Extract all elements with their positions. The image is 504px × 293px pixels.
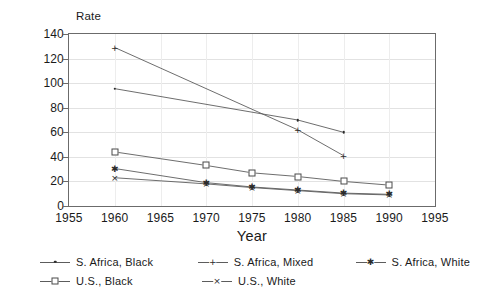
legend-label: S. Africa, White [386, 256, 470, 268]
y-tick-mark [63, 132, 68, 133]
plus-marker: + [294, 125, 302, 134]
legend-label: S. Africa, Mixed [228, 256, 314, 268]
dot-marker [114, 87, 117, 90]
y-axis-ticks: 020406080100120140 [16, 0, 64, 293]
legend-label: U.S., Black [70, 275, 133, 287]
x-marker: × [385, 190, 393, 199]
dot-marker-icon [40, 256, 70, 268]
series-markers: +++✱✱✱✱✱✱×××××× [69, 34, 435, 206]
x-tick-label: 1990 [376, 211, 404, 225]
plot-area: +++✱✱✱✱✱✱×××××× [68, 33, 436, 207]
x-tick-label: 1960 [101, 211, 129, 225]
x-tick-label: 1995 [421, 211, 449, 225]
y-tick-mark [63, 83, 68, 84]
y-tick-label: 100 [22, 76, 64, 90]
asterisk-marker-icon: ✱ [356, 256, 386, 268]
chart-legend: S. Africa, Black + S. Africa, Mixed ✱ S.… [40, 252, 470, 290]
y-tick-mark [63, 108, 68, 109]
y-tick-mark [63, 157, 68, 158]
x-tick-label: 1965 [147, 211, 175, 225]
x-axis-title: Year [0, 228, 504, 244]
legend-item-us-white[interactable]: × U.S., White [202, 271, 364, 290]
y-tick-label: 20 [22, 174, 64, 188]
dot-marker [297, 119, 300, 122]
y-tick-label: 60 [22, 125, 64, 139]
legend-label: S. Africa, Black [70, 256, 153, 268]
x-tick-label: 1985 [330, 211, 358, 225]
y-tick-mark [63, 59, 68, 60]
x-marker: × [294, 186, 302, 195]
x-marker: × [111, 173, 119, 182]
plus-marker-icon: + [198, 256, 228, 268]
line-chart: Rate 020406080100120140 +++✱✱✱✱✱✱×××××× … [0, 0, 504, 293]
square-marker [294, 173, 301, 180]
square-marker [249, 169, 256, 176]
y-tick-label: 80 [22, 101, 64, 115]
y-tick-mark [63, 206, 68, 207]
y-tick-label: 120 [22, 52, 64, 66]
x-marker: × [340, 189, 348, 198]
x-tick-label: 1955 [55, 211, 83, 225]
square-marker-icon [40, 275, 70, 287]
x-tick-label: 1970 [193, 211, 221, 225]
plus-marker: + [111, 43, 119, 52]
legend-item-s-africa-white[interactable]: ✱ S. Africa, White [356, 252, 470, 271]
legend-row-2: U.S., Black × U.S., White [40, 271, 470, 290]
x-tick-label: 1975 [238, 211, 266, 225]
y-tick-mark [63, 181, 68, 182]
x-marker-icon: × [202, 275, 232, 287]
dot-marker [342, 131, 345, 134]
y-tick-label: 140 [22, 27, 64, 41]
legend-label: U.S., White [232, 275, 296, 287]
legend-item-s-africa-mixed[interactable]: + S. Africa, Mixed [198, 252, 356, 271]
square-marker [111, 148, 118, 155]
legend-row-1: S. Africa, Black + S. Africa, Mixed ✱ S.… [40, 252, 470, 271]
y-axis-title: Rate [76, 10, 101, 22]
plus-marker: + [340, 151, 348, 160]
x-marker: × [202, 179, 210, 188]
legend-item-us-black[interactable]: U.S., Black [40, 271, 202, 290]
y-tick-mark [63, 34, 68, 35]
square-marker [203, 162, 210, 169]
y-tick-label: 40 [22, 150, 64, 164]
square-marker [386, 182, 393, 189]
legend-item-s-africa-black[interactable]: S. Africa, Black [40, 252, 198, 271]
x-marker: × [248, 183, 256, 192]
square-marker [340, 178, 347, 185]
x-tick-label: 1980 [284, 211, 312, 225]
